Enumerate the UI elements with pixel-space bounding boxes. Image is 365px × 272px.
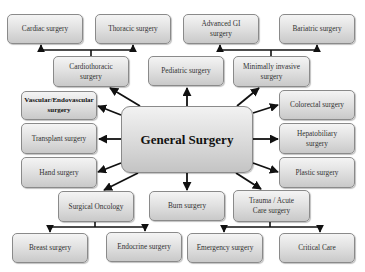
node-label: Thoracic surgery	[108, 24, 158, 34]
node-label: Cardiac surgery	[22, 24, 68, 34]
node-label: Burn surgery	[168, 201, 206, 211]
node-trauma-acute-care-surgery: Trauma / Acute Care surgery	[233, 190, 310, 222]
node-label: Critical Care	[298, 243, 335, 253]
node-endocrine-surgery: Endocrine surgery	[106, 232, 182, 262]
node-advanced-gi-surgery: Advanced GI surgery	[183, 14, 259, 44]
arrow-to-colorectal	[253, 105, 278, 113]
node-critical-care: Critical Care	[279, 233, 355, 263]
node-vascular-endovascular-surgery: Vascular/Endovascular surgery	[21, 91, 97, 120]
surgery-specialties-diagram: Cardiac surgery Thoracic surgery Advance…	[0, 0, 365, 272]
node-label: Bariatric surgery	[292, 24, 341, 34]
node-label: Advanced GI surgery	[199, 19, 243, 39]
node-label: Plastic surgery	[295, 168, 338, 178]
node-label: Hand surgery	[39, 168, 78, 178]
node-plastic-surgery: Plastic surgery	[279, 157, 355, 188]
node-minimally-invasive-surgery: Minimally invasive surgery	[233, 56, 310, 87]
arrow-to-hand	[98, 163, 121, 172]
node-hand-surgery: Hand surgery	[21, 157, 97, 188]
node-label: Minimally invasive surgery	[237, 62, 307, 82]
node-emergency-surgery: Emergency surgery	[187, 233, 263, 263]
node-cardiothoracic-surgery: Cardiothoracic surgery	[53, 56, 129, 87]
node-label: Surgical Oncology	[69, 202, 124, 212]
bracket-minimally-invasive	[220, 45, 317, 56]
node-general-surgery: General Surgery	[121, 106, 253, 173]
node-label: Colorectal surgery	[290, 100, 344, 110]
arrow-to-trauma	[236, 173, 261, 189]
node-label: Pediatric surgery	[161, 66, 211, 76]
node-label: Vascular/Endovascular surgery	[24, 96, 94, 115]
node-hepatobiliary-surgery: Hepatobiliary surgery	[279, 123, 355, 154]
arrow-to-plastic	[253, 163, 278, 172]
node-label: Transplant surgery	[32, 134, 87, 144]
arrow-to-surgical-oncology	[104, 173, 138, 190]
node-label: Endocrine surgery	[117, 242, 171, 252]
node-label: Emergency surgery	[197, 243, 254, 253]
arrow-to-vascular	[98, 106, 121, 115]
center-label: General Surgery	[141, 131, 234, 149]
node-label: Trauma / Acute Care surgery	[246, 196, 298, 216]
node-burn-surgery: Burn surgery	[149, 191, 225, 221]
node-bariatric-surgery: Bariatric surgery	[279, 14, 355, 44]
bracket-cardiothoracic	[41, 45, 133, 56]
node-label: Cardiothoracic surgery	[66, 62, 116, 82]
node-thoracic-surgery: Thoracic surgery	[95, 14, 171, 44]
node-label: Breast surgery	[29, 243, 71, 253]
node-pediatric-surgery: Pediatric surgery	[148, 56, 224, 86]
arrow-to-cardiothoracic	[110, 88, 140, 106]
node-label: Hepatobiliary surgery	[292, 129, 342, 149]
bracket-trauma	[224, 222, 320, 232]
node-surgical-oncology: Surgical Oncology	[58, 191, 134, 222]
bracket-surgical-oncology	[50, 222, 145, 232]
node-transplant-surgery: Transplant surgery	[21, 123, 97, 154]
node-colorectal-surgery: Colorectal surgery	[279, 90, 355, 120]
node-breast-surgery: Breast surgery	[12, 233, 88, 263]
node-cardiac-surgery: Cardiac surgery	[7, 14, 83, 44]
arrow-to-minimally-invasive	[237, 88, 259, 106]
